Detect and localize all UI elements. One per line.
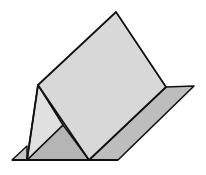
base-sheet-left-flap	[12, 146, 27, 160]
folded-paper-diagram	[0, 0, 206, 175]
diagram-canvas	[0, 0, 206, 175]
